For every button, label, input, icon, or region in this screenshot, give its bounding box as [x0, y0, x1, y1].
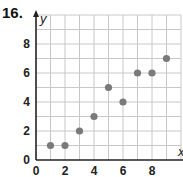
data-point: [134, 69, 141, 76]
y-tick-label: 6: [23, 66, 30, 80]
x-axis-label: x: [177, 144, 183, 159]
x-tick-label: 4: [91, 164, 98, 177]
data-point: [90, 113, 97, 120]
y-tick-label: 0: [23, 153, 30, 167]
x-tick-label: 6: [120, 164, 127, 177]
data-point: [61, 142, 68, 149]
y-axis-label: y: [39, 11, 48, 26]
scatter-plot: xy 0246802468: [0, 0, 183, 177]
data-point: [148, 69, 155, 76]
y-tick-label: 4: [23, 95, 30, 109]
data-point: [47, 142, 54, 149]
y-tick-label: 8: [23, 37, 30, 51]
data-point: [76, 127, 83, 134]
y-axis-arrow-icon: [33, 10, 39, 17]
x-tick-label: 2: [62, 164, 69, 177]
data-point: [119, 98, 126, 105]
data-point: [163, 55, 170, 62]
data-point: [105, 84, 112, 91]
x-tick-label: 0: [33, 164, 40, 177]
x-tick-label: 8: [149, 164, 156, 177]
y-tick-label: 2: [23, 124, 30, 138]
